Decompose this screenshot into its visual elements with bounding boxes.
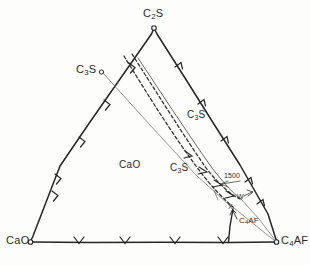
region-label-c3s-lower: C3S <box>170 163 189 174</box>
apex-vertex-marker <box>152 26 157 31</box>
region-c4af-tail: AF <box>248 216 259 225</box>
apex-label-tail: S <box>156 7 164 19</box>
triangle-outline <box>31 28 277 242</box>
bottom-right-label: C4AF <box>281 235 308 248</box>
dashed-boundary-outer <box>124 56 233 207</box>
apex-label: C2S <box>143 8 163 21</box>
c3s-point-label: C3S <box>76 64 96 77</box>
bottom-left-label: CaO <box>6 235 30 248</box>
bottom-right-label-base: C <box>281 234 289 246</box>
tie-line-c3s-to-x <box>103 73 234 208</box>
region-cao-base: CaO <box>119 159 140 170</box>
c3s-point-label-base: C <box>76 63 84 75</box>
diagram-canvas <box>0 0 310 265</box>
tick-chevron-icon <box>52 191 58 201</box>
region-c3s-right-base: C <box>187 109 195 120</box>
point-label-w: W <box>237 193 244 200</box>
c3s-point-marker <box>99 70 103 74</box>
point-label-x: X <box>228 203 233 210</box>
region-c3s-right-tail: S <box>199 109 206 120</box>
bottom-left-label-base: CaO <box>6 234 30 246</box>
isotherm-label-1500: 1500 <box>224 172 240 179</box>
region-label-c3s-right: C3S <box>187 110 206 121</box>
region-label-cao: CaO <box>119 160 140 171</box>
bottom-right-label-tail: AF <box>294 234 309 246</box>
annotation-leaders <box>214 181 253 219</box>
phase-diagram-figure: C2S CaO C4AF C3S CaO C3S C3S C4AF 1500 W… <box>0 0 310 265</box>
region-c3s-lower-tail: S <box>182 162 189 173</box>
vertex-markers <box>28 26 279 245</box>
bottom-right-vertex-marker <box>274 240 279 245</box>
triangle-right-edge <box>154 28 277 241</box>
tick-chevron-icon <box>79 137 85 147</box>
region-c3s-lower-base: C <box>170 162 178 173</box>
apex-label-base: C <box>143 7 151 19</box>
left-edge-ticks <box>52 63 135 201</box>
region-label-c4af: C4AF <box>239 217 259 226</box>
c3s-point-label-tail: S <box>89 63 97 75</box>
